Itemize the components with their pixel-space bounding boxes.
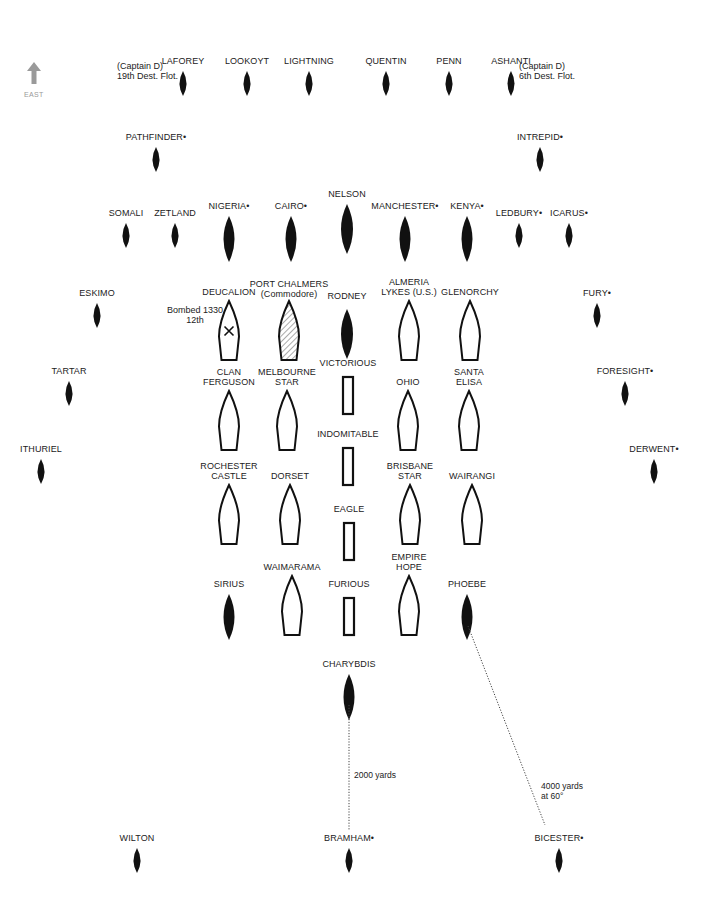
- ship-phoebe: [462, 594, 473, 640]
- cruiser-icon: [400, 216, 411, 262]
- destroyer-icon: [651, 459, 658, 484]
- destroyer-icon: [172, 223, 179, 248]
- ship-label-fury: FURY•: [583, 288, 611, 298]
- distance-label-phoebe-bicester: 4000 yardsat 60°: [541, 781, 583, 801]
- cruiser-icon: [344, 674, 355, 720]
- destroyer-icon: [594, 303, 601, 328]
- ship-penn: [446, 71, 453, 96]
- ship-label-santa-elisa: SANTAELISA: [454, 367, 484, 387]
- ship-almeria-lykes: [399, 301, 419, 360]
- ship-rochester-castle: [219, 485, 239, 544]
- ship-indomitable: [343, 448, 353, 485]
- merchant-ship-icon: [282, 576, 302, 635]
- ship-label-glenorchy: GLENORCHY: [441, 287, 499, 297]
- destroyer-icon: [383, 71, 390, 96]
- ship-somali: [123, 223, 130, 248]
- ship-label-zetland: ZETLAND: [154, 208, 196, 218]
- ship-pathfinder: [153, 147, 160, 172]
- ship-zetland: [172, 223, 179, 248]
- ship-dorset: [280, 485, 300, 544]
- ship-label-nigeria: NIGERIA•: [209, 201, 250, 211]
- ship-intrepid: [537, 147, 544, 172]
- carrier-icon: [344, 523, 354, 560]
- destroyer-icon: [446, 71, 453, 96]
- ship-bramham: [346, 848, 353, 873]
- ship-label-lookoyt: LOOKOYT: [225, 56, 269, 66]
- ship-label-eagle: EAGLE: [334, 504, 365, 514]
- ship-label-rodney: RODNEY: [327, 291, 366, 301]
- convoy-formation-diagram: LAFOREY(Captain D)19th Dest. Flot.LOOKOY…: [0, 0, 719, 909]
- ship-lookoyt: [244, 71, 251, 96]
- destroyer-icon: [153, 147, 160, 172]
- ship-ledbury: [516, 223, 523, 248]
- cruiser-icon: [462, 594, 473, 640]
- merchant-ship-icon: [219, 391, 239, 450]
- merchant-ship-icon: [277, 391, 297, 450]
- ship-melbourne-star: [277, 391, 297, 450]
- ship-empire-hope: [399, 576, 419, 635]
- cruiser-icon: [462, 216, 473, 262]
- ship-label-brisbane-star: BRISBANESTAR: [387, 461, 433, 481]
- cruiser-icon: [224, 216, 235, 262]
- ship-label-somali: SOMALI: [109, 208, 144, 218]
- ship-port-chalmers: [279, 301, 299, 360]
- ship-label-manchester: MANCHESTER•: [371, 201, 438, 211]
- ship-label-lightning: LIGHTNING: [284, 56, 334, 66]
- ship-label-empire-hope: EMPIREHOPE: [391, 552, 426, 572]
- destroyer-icon: [244, 71, 251, 96]
- cruiser-icon: [224, 594, 235, 640]
- merchant-ship-icon: [219, 485, 239, 544]
- ship-wairangi: [462, 485, 482, 544]
- ship-quentin: [383, 71, 390, 96]
- destroyer-icon: [123, 223, 130, 248]
- destroyer-icon: [94, 303, 101, 328]
- ship-rodney: [341, 309, 353, 359]
- ship-label-derwent: DERWENT•: [629, 444, 678, 454]
- ship-label-nelson: NELSON: [328, 189, 366, 199]
- cruiser-icon: [286, 216, 297, 262]
- ship-clan-ferguson: [219, 391, 239, 450]
- ship-label-ohio: OHIO: [396, 377, 419, 387]
- ship-ohio: [398, 391, 418, 450]
- ship-label-wilton: WILTON: [120, 833, 155, 843]
- ship-sirius: [224, 594, 235, 640]
- ship-label-melbourne-star: MELBOURNESTAR: [258, 367, 316, 387]
- ship-bicester: [556, 848, 563, 873]
- ship-label-phoebe: PHOEBE: [448, 579, 486, 589]
- ship-eagle: [344, 523, 354, 560]
- destroyer-icon: [508, 71, 515, 96]
- merchant-ship-icon: [459, 391, 479, 450]
- carrier-icon: [343, 377, 353, 414]
- ship-victorious: [343, 377, 353, 414]
- ship-label-furious: FURIOUS: [328, 579, 369, 589]
- distance-label-charybdis-bramham: 2000 yards: [354, 770, 396, 780]
- ship-wilton: [134, 848, 141, 873]
- ship-kenya: [462, 216, 473, 262]
- destroyer-icon: [537, 147, 544, 172]
- destroyer-icon: [134, 848, 141, 873]
- ship-note-ashanti: (Captain D)6th Dest. Flot.: [519, 61, 575, 81]
- ship-label-waimarama: WAIMARAMA: [263, 562, 320, 572]
- compass-label: EAST: [24, 91, 43, 98]
- destroyer-icon: [516, 223, 523, 248]
- merchant-ship-icon: [398, 391, 418, 450]
- ship-nigeria: [224, 216, 235, 262]
- ship-label-cairo: CAIRO•: [275, 201, 307, 211]
- destroyer-icon: [306, 71, 313, 96]
- ship-label-ledbury: LEDBURY•: [496, 208, 542, 218]
- ship-label-deucalion: DEUCALION: [202, 287, 255, 297]
- ship-note-laforey: (Captain D)19th Dest. Flot.: [117, 61, 178, 81]
- merchant-ship-icon: [462, 485, 482, 544]
- ship-label-intrepid: INTREPID•: [517, 132, 563, 142]
- ship-label-penn: PENN: [436, 56, 461, 66]
- ship-icarus: [566, 223, 573, 248]
- merchant-ship-icon: [400, 485, 420, 544]
- ship-furious: [344, 598, 354, 635]
- battleship-icon: [341, 204, 353, 254]
- destroyer-icon: [38, 459, 45, 484]
- ship-glenorchy: [460, 301, 480, 360]
- ship-label-clan-ferguson: CLANFERGUSON: [203, 367, 255, 387]
- ship-note-deucalion: Bombed 133012th: [167, 305, 223, 325]
- compass: EAST: [26, 62, 42, 96]
- destroyer-icon: [346, 848, 353, 873]
